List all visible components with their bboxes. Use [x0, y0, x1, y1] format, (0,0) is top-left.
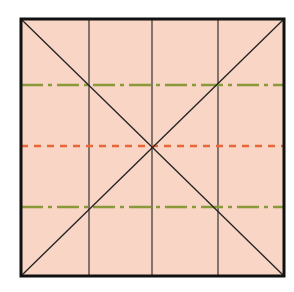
- grid-diagram: [0, 0, 294, 292]
